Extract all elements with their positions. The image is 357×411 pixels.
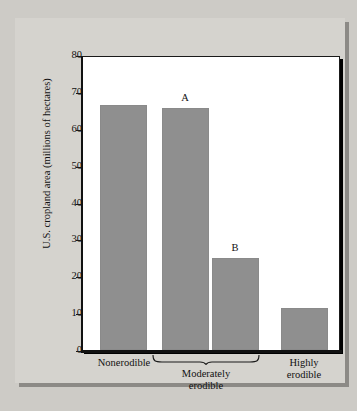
- y-tick-30: 30: [15, 240, 82, 241]
- x-label-line-2: erodible: [189, 380, 223, 391]
- x-label-line-1: Moderately: [182, 368, 230, 379]
- y-tick-60: 60: [15, 130, 82, 131]
- y-tick-80: 80: [15, 56, 82, 57]
- bar-moderately-erodible-b: [212, 258, 259, 350]
- bar-moderately-erodible-a: [162, 108, 209, 350]
- x-label-moderately-erodible: Moderately erodible: [161, 368, 251, 392]
- y-axis-title: U.S. cropland area (millions of hectares…: [41, 49, 52, 279]
- y-tick-40: 40: [15, 204, 82, 205]
- y-axis-line: [81, 56, 83, 352]
- y-tick-70: 70: [15, 93, 82, 94]
- x-axis-line: [81, 350, 342, 353]
- group-bracket-moderately-erodible: [152, 354, 260, 365]
- bar-nonerodible: [100, 105, 147, 350]
- bar-label-a: A: [175, 92, 195, 103]
- x-label-highly-erodible: Highly erodible: [270, 357, 338, 381]
- y-tick-20: 20: [15, 277, 82, 278]
- x-label-line-2: erodible: [287, 369, 321, 380]
- y-tick-0: 0: [15, 351, 82, 352]
- figure-panel: U.S. cropland area (millions of hectares…: [15, 18, 345, 383]
- bar-highly-erodible: [281, 308, 328, 350]
- figure-root: U.S. cropland area (millions of hectares…: [0, 0, 357, 411]
- x-label-line-1: Highly: [289, 357, 318, 368]
- y-tick-50: 50: [15, 167, 82, 168]
- y-tick-10: 10: [15, 314, 82, 315]
- bar-label-b: B: [225, 242, 245, 253]
